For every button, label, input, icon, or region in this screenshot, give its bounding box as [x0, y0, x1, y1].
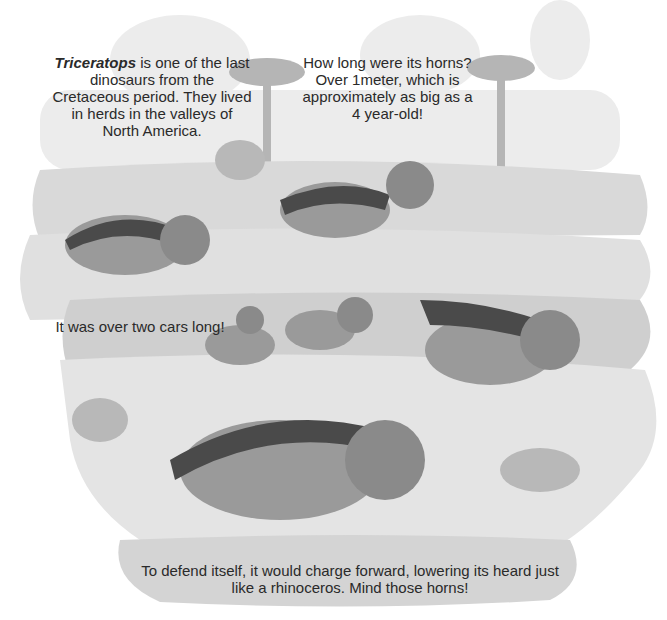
defense-caption: To defend itself, it would charge forwar… [140, 562, 560, 596]
intro-bold: Triceratops [55, 54, 136, 71]
horns-caption: How long were its horns? Over 1meter, wh… [300, 54, 475, 122]
intro-caption: Triceratops is one of the last dinosaurs… [52, 54, 252, 139]
length-caption: It was over two cars long! [40, 318, 240, 335]
